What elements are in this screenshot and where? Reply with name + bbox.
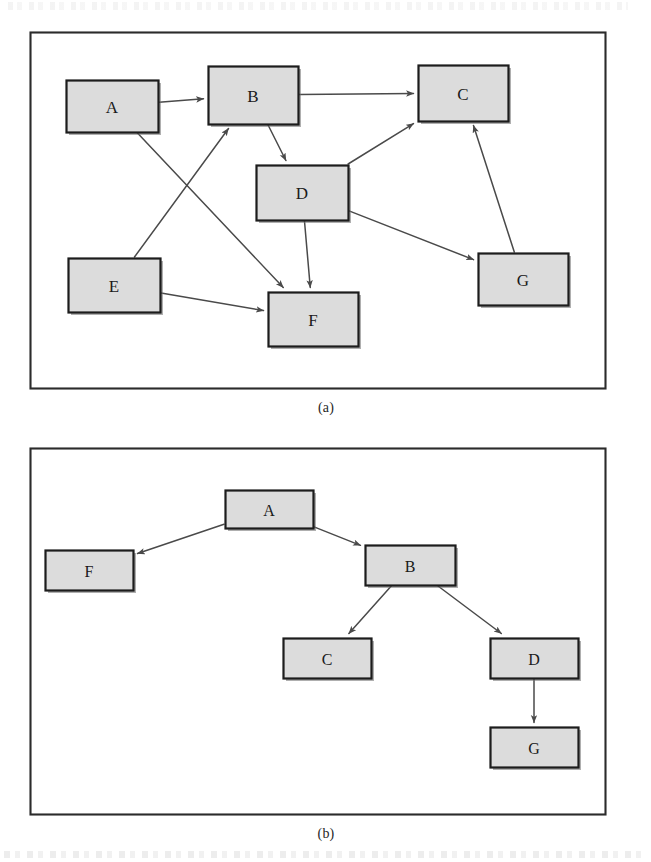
panel-a: ABCDEFG (31, 33, 606, 389)
node-a-D[interactable]: D (257, 166, 352, 224)
node-label: G (517, 271, 529, 290)
node-label: A (263, 502, 275, 519)
node-label: C (322, 651, 333, 668)
node-label: D (296, 184, 308, 203)
node-a-C[interactable]: C (419, 66, 512, 125)
page-scan-artifact-bottom (4, 851, 647, 858)
node-a-G[interactable]: G (479, 254, 572, 309)
edge-E-to-B (134, 129, 228, 258)
figure-canvas: ABCDEFGAFBCDG (0, 0, 651, 862)
panel-a-nodes: ABCDEFG (67, 66, 572, 350)
node-b-C[interactable]: C (284, 639, 375, 682)
node-a-B[interactable]: B (209, 67, 302, 128)
node-a-A[interactable]: A (67, 81, 162, 136)
panel-b-caption: (b) (296, 826, 356, 842)
edge-D-to-C (348, 124, 413, 164)
node-label: G (528, 740, 540, 757)
edge-B-to-D (268, 125, 286, 161)
node-b-F[interactable]: F (46, 551, 137, 594)
edge-B-to-D (438, 586, 501, 634)
node-a-E[interactable]: E (69, 259, 164, 316)
node-b-B[interactable]: B (366, 546, 459, 589)
edge-D-to-G (349, 211, 474, 260)
panel-b: AFBCDG (31, 449, 606, 815)
node-b-G[interactable]: G (491, 728, 582, 771)
edge-B-to-C (299, 93, 414, 94)
node-label: A (106, 98, 119, 117)
edge-A-to-B (314, 527, 361, 545)
node-label: D (528, 651, 540, 668)
node-b-D[interactable]: D (491, 639, 582, 682)
node-a-F[interactable]: F (269, 293, 362, 350)
panel-b-edges (138, 524, 535, 722)
node-label: F (85, 563, 94, 580)
node-label: B (405, 558, 416, 575)
edge-E-to-F (161, 293, 264, 311)
node-b-A[interactable]: A (226, 491, 317, 532)
edge-A-to-B (159, 99, 204, 102)
edge-A-to-F (138, 524, 225, 553)
edge-G-to-C (473, 126, 514, 253)
panel-a-caption: (a) (296, 400, 356, 416)
edge-D-to-F (304, 221, 310, 288)
node-label: F (308, 311, 317, 330)
node-label: C (457, 85, 468, 104)
panel-b-nodes: AFBCDG (46, 491, 582, 771)
node-label: E (109, 277, 119, 296)
figure-root: ABCDEFGAFBCDG (a) (b) (0, 0, 651, 862)
edge-B-to-C (349, 586, 391, 634)
node-label: B (247, 87, 258, 106)
